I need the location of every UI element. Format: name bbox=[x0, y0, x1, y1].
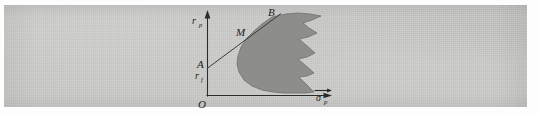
x-axis-label-text: σ bbox=[316, 92, 322, 103]
y-axis-label-text: r bbox=[192, 15, 196, 26]
y-axis-label-subscript: p bbox=[198, 21, 203, 28]
y-axis-arrowhead bbox=[205, 10, 211, 19]
figure-page: r p σ p O A r f M B bbox=[0, 0, 540, 115]
point-b-label: B bbox=[268, 6, 275, 18]
point-a-label: A bbox=[196, 58, 204, 70]
capital-market-line-figure: r p σ p O A r f M B bbox=[0, 0, 540, 115]
x-axis-label-subscript: p bbox=[323, 98, 328, 105]
feasible-region-shape bbox=[237, 13, 321, 93]
label-y-axis: r p bbox=[192, 15, 203, 28]
sigma-label-overbar-arrowhead bbox=[327, 89, 332, 93]
risk-free-rate-label-subscript: f bbox=[201, 76, 204, 83]
origin-label: O bbox=[198, 98, 206, 110]
label-risk-free-rate: r f bbox=[195, 70, 204, 83]
risk-free-rate-label-text: r bbox=[195, 70, 199, 81]
point-m-label: M bbox=[235, 26, 246, 38]
